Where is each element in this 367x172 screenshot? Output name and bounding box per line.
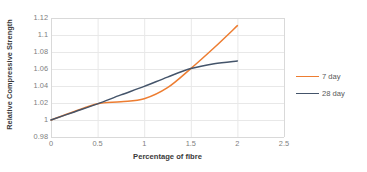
x-tick-label: 0 — [38, 140, 64, 147]
x-axis-title: Percentage of fibre — [51, 152, 284, 161]
chart-container: Relative Compressive Strength 0.9811.021… — [0, 0, 367, 172]
legend-swatch-7-day — [296, 76, 319, 77]
x-axis-tick-labels: 00.511.522.5 — [51, 140, 284, 152]
x-tick-label: 2 — [224, 140, 250, 147]
legend-swatch-28-day — [296, 93, 319, 94]
legend-label-28-day: 28 day — [322, 89, 345, 98]
legend-item-28-day[interactable]: 28 day — [296, 85, 366, 102]
x-tick-label: 1.5 — [178, 140, 204, 147]
x-tick-label: 0.5 — [85, 140, 111, 147]
x-tick-label: 1 — [131, 140, 157, 147]
x-tick-label: 2.5 — [271, 140, 297, 147]
legend-label-7-day: 7 day — [322, 72, 341, 81]
chart-legend: 7 day 28 day — [296, 68, 366, 102]
legend-item-7-day[interactable]: 7 day — [296, 68, 366, 85]
